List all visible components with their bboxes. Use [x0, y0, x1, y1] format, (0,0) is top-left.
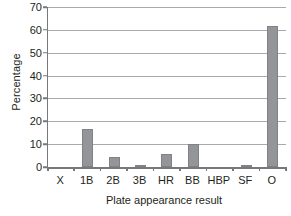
x-tick-label: HBP — [206, 173, 232, 189]
x-tick-label: SF — [232, 173, 258, 189]
bar-slot — [180, 7, 206, 167]
y-axis-tick-labels: 010203040506070 — [20, 7, 42, 167]
x-tickmark — [47, 167, 49, 171]
x-tickmark — [259, 167, 261, 171]
x-tickmark — [232, 167, 234, 171]
bar-slot — [260, 7, 286, 167]
x-tick-label: HR — [153, 173, 179, 189]
y-tick-label: 70 — [30, 2, 42, 13]
bar — [161, 154, 172, 167]
y-tick-label: 10 — [30, 139, 42, 150]
bar-slot — [127, 7, 153, 167]
y-tickmark — [43, 29, 47, 31]
x-tick-label: O — [259, 173, 285, 189]
x-tickmark — [126, 167, 128, 171]
y-tick-label: 30 — [30, 93, 42, 104]
y-tickmark — [43, 52, 47, 54]
bar — [188, 144, 199, 167]
x-tickmark — [285, 167, 287, 171]
x-axis-tickmarks — [47, 167, 285, 172]
bar — [109, 157, 120, 167]
bar-series — [48, 7, 286, 167]
x-tickmark — [206, 167, 208, 171]
y-tick-label: 60 — [30, 24, 42, 35]
bar-slot — [101, 7, 127, 167]
y-tickmark — [43, 143, 47, 145]
bar-slot — [48, 7, 74, 167]
x-axis-title: Plate appearance result — [40, 193, 288, 207]
y-tick-label: 20 — [30, 116, 42, 127]
x-tick-label: 1B — [73, 173, 99, 189]
bar — [82, 129, 93, 167]
bar-slot — [154, 7, 180, 167]
y-tickmark — [43, 6, 47, 8]
y-tick-label: 50 — [30, 47, 42, 58]
x-tick-label: BB — [179, 173, 205, 189]
x-tickmark — [179, 167, 181, 171]
x-tick-label: 2B — [100, 173, 126, 189]
y-tickmark — [43, 98, 47, 100]
y-tick-label: 40 — [30, 70, 42, 81]
y-tickmark — [43, 75, 47, 77]
bar — [267, 26, 278, 167]
x-axis-tick-labels: X1B2B3BHRBBHBPSFO — [47, 173, 285, 189]
x-tickmark — [73, 167, 75, 171]
x-tickmark — [100, 167, 102, 171]
y-tick-label: 0 — [36, 162, 42, 173]
x-tick-label: X — [47, 173, 73, 189]
bar-chart: Percentage 010203040506070 X1B2B3BHRBBHB… — [0, 0, 291, 216]
bar-slot — [233, 7, 259, 167]
bar-slot — [74, 7, 100, 167]
y-tickmark — [43, 121, 47, 123]
bar-slot — [207, 7, 233, 167]
x-tick-label: 3B — [126, 173, 152, 189]
plot-area — [47, 7, 285, 167]
x-tickmark — [153, 167, 155, 171]
